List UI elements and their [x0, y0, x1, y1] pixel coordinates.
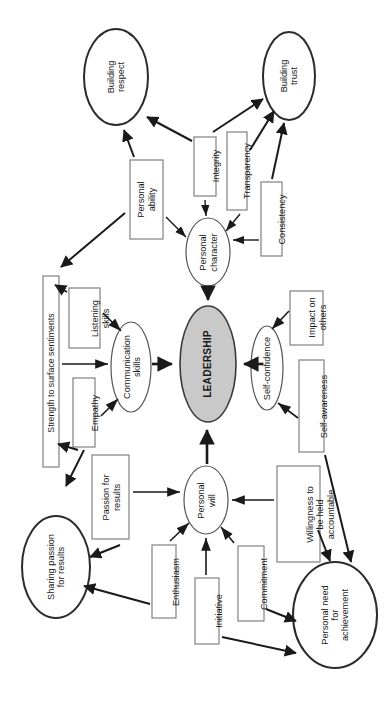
node-personal-will: [184, 466, 228, 534]
edge-integrity-personal-character: [205, 200, 206, 216]
edge-listening-skills-communication-skills: [103, 313, 121, 331]
node-passion-for-results: [92, 455, 129, 539]
edge-self-awareness-self-confidence: [278, 403, 298, 418]
edge-empathy-communication-skills: [101, 399, 118, 416]
node-self-awareness: [299, 360, 324, 452]
diagram-canvas: [0, 0, 392, 708]
node-commitment: [238, 546, 264, 621]
node-integrity: [194, 137, 216, 196]
node-communication-skills: [111, 322, 151, 412]
node-building-respect: [84, 29, 148, 125]
edge-personal-ability-building-respect: [124, 130, 134, 157]
node-personal-need-for-achievement: [293, 562, 377, 668]
node-enthusiasm: [152, 545, 176, 618]
node-personal-character: [186, 218, 230, 286]
node-listening-skills: [69, 288, 100, 348]
edge-commitment-personal-need: [266, 609, 296, 621]
edge-commitment-personal-will: [221, 527, 234, 543]
node-building-trust: [263, 32, 315, 120]
node-sharing-passion-for-results: [22, 516, 90, 618]
node-personal-ability: [130, 160, 163, 239]
edge-initiative-personal-need: [222, 637, 296, 653]
node-transparency: [227, 132, 247, 210]
edge-personal-ability-strength-to-surface-sentiments: [61, 213, 125, 267]
node-impact-on-others: [290, 291, 323, 345]
node-self-confidence: [251, 326, 283, 410]
edge-self-awareness-personal-need: [325, 455, 351, 562]
edge-transparency-building-trust: [250, 111, 274, 150]
edge-impact-on-others-self-confidence: [272, 311, 289, 329]
node-empathy: [73, 378, 95, 447]
edge-personal-ability-personal-character: [166, 217, 186, 237]
edge-enthusiasm-personal-will: [170, 523, 189, 541]
leadership-diagram: Building respect Building trust Personal…: [0, 0, 392, 708]
edge-integrity-building-trust: [213, 99, 263, 132]
edge-passion-for-results-sharing-passion: [90, 545, 120, 557]
edge-consistency-building-trust: [272, 123, 284, 179]
edge-transparency-personal-character: [226, 214, 240, 231]
node-initiative: [195, 578, 219, 644]
node-leadership-core: [180, 306, 236, 422]
node-consistency: [261, 182, 282, 256]
edge-empathy-sharing-passion: [66, 450, 84, 486]
node-strength-to-surface-sentiments: [43, 276, 59, 467]
edge-enthusiasm-sharing-passion: [84, 586, 150, 604]
node-willingness-to-be-held-accountable: [277, 466, 320, 562]
edge-integrity-building-respect: [147, 117, 192, 141]
